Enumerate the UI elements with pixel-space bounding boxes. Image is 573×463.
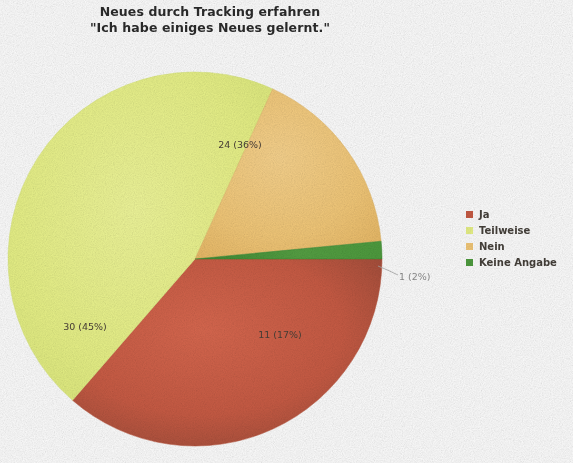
pie-chart: 24 (36%) 30 (45%) 11 (17%) 1 (2%) [0,0,460,463]
chart-page: Neues durch Tracking erfahren "Ich habe … [0,0,573,463]
legend-label: Nein [479,241,505,252]
legend: Ja Teilweise Nein Keine Angabe [466,207,571,271]
pie-label-ja: 24 (36%) [218,139,262,150]
legend-label: Keine Angabe [479,257,557,268]
legend-swatch-icon [466,259,473,266]
legend-label: Ja [479,209,489,220]
legend-swatch-icon [466,227,473,234]
legend-item-nein[interactable]: Nein [466,239,571,254]
pie-label-keine-angabe: 1 (2%) [399,271,431,282]
legend-swatch-icon [466,211,473,218]
legend-swatch-icon [466,243,473,250]
legend-item-teilweise[interactable]: Teilweise [466,223,571,238]
pie-label-teilweise: 30 (45%) [63,321,107,332]
legend-item-ja[interactable]: Ja [466,207,571,222]
legend-item-keine-angabe[interactable]: Keine Angabe [466,255,571,270]
legend-label: Teilweise [479,225,530,236]
pie-label-nein: 11 (17%) [258,329,302,340]
pie-chart-svg: 24 (36%) 30 (45%) 11 (17%) 1 (2%) [0,0,460,463]
